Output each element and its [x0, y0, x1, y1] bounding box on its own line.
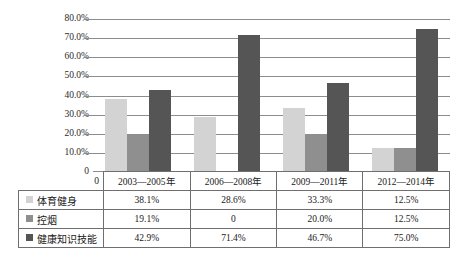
table-cell: 42.9% — [104, 229, 191, 248]
table-cell: 19.1% — [104, 210, 191, 229]
table-row: 体育健身38.1%28.6%33.3%12.5% — [19, 191, 450, 210]
bar-groups — [93, 19, 450, 172]
table-row: 健康知识技能42.9%71.4%46.7%75.0% — [19, 229, 450, 248]
legend-swatch-icon — [26, 196, 33, 203]
bar-group-bars — [182, 19, 271, 172]
table-cell: 0 — [190, 210, 277, 229]
y-axis-tick-mark — [84, 76, 93, 77]
y-axis-tick-label: 70.0% — [33, 33, 89, 43]
table-header-row: 02003—2005年2006—2008年2009—2011年2012—2014… — [19, 172, 450, 191]
bar — [305, 134, 327, 172]
y-axis-tick-labels: 010.0%20.0%30.0%40.0%50.0%60.0%70.0%80.0… — [33, 0, 89, 175]
table-cell: 71.4% — [190, 229, 277, 248]
bar-group-bars — [361, 19, 450, 172]
table-row: 控烟19.1%020.0%12.5% — [19, 210, 450, 229]
legend-row-label: 体育健身 — [19, 191, 104, 210]
bar — [416, 29, 438, 172]
bar-group-bars — [272, 19, 361, 172]
legend-row-label: 控烟 — [19, 210, 104, 229]
table-column-header: 2012—2014年 — [363, 172, 450, 191]
bar — [127, 135, 149, 172]
table-column-header: 2003—2005年 — [104, 172, 191, 191]
y-axis-tick-mark — [84, 38, 93, 39]
axis-origin-label: 0 — [19, 172, 104, 191]
bar — [394, 148, 416, 172]
table-cell: 75.0% — [363, 229, 450, 248]
y-axis-tick-mark — [84, 96, 93, 97]
y-axis-tick-mark — [84, 57, 93, 58]
legend-series-name: 健康知识技能 — [37, 234, 97, 245]
legend-row-label: 健康知识技能 — [19, 229, 104, 248]
bar — [105, 99, 127, 172]
y-axis-tick-label: 30.0% — [33, 110, 89, 120]
y-axis-tick-label: 60.0% — [33, 52, 89, 62]
legend-series-name: 体育健身 — [37, 196, 77, 207]
table-cell: 28.6% — [190, 191, 277, 210]
legend-swatch-icon — [26, 215, 33, 222]
bar — [238, 35, 260, 172]
table-column-header: 2009—2011年 — [277, 172, 363, 191]
y-axis-tick-label: 50.0% — [33, 71, 89, 81]
bar-group — [272, 19, 361, 172]
bar — [194, 117, 216, 172]
y-axis-tick-mark — [84, 153, 93, 154]
bar — [283, 108, 305, 172]
table-column-header: 2006—2008年 — [190, 172, 277, 191]
table-cell: 46.7% — [277, 229, 363, 248]
bar — [149, 90, 171, 172]
y-axis-tick-mark — [84, 134, 93, 135]
bar — [372, 148, 394, 172]
y-axis-tick-mark — [84, 115, 93, 116]
y-axis-tick-label: 40.0% — [33, 91, 89, 101]
bar-chart: 010.0%20.0%30.0%40.0%50.0%60.0%70.0%80.0… — [0, 0, 473, 175]
bar-group — [361, 19, 450, 172]
table-cell: 33.3% — [277, 191, 363, 210]
y-axis-tick-label: 20.0% — [33, 129, 89, 139]
legend-series-name: 控烟 — [37, 215, 57, 226]
y-axis-tick-label: 80.0% — [33, 14, 89, 24]
table-cell: 20.0% — [277, 210, 363, 229]
bar-group-bars — [93, 19, 182, 172]
data-table: 02003—2005年2006—2008年2009—2011年2012—2014… — [18, 171, 450, 248]
table-cell: 12.5% — [363, 210, 450, 229]
bar-group — [93, 19, 182, 172]
legend-swatch-icon — [26, 234, 33, 241]
plot-area — [93, 19, 450, 172]
table-cell: 12.5% — [363, 191, 450, 210]
bar-group — [182, 19, 271, 172]
table-cell: 38.1% — [104, 191, 191, 210]
y-axis-tick-mark — [84, 19, 93, 20]
y-axis-tick-label: 10.0% — [33, 148, 89, 158]
bar — [327, 83, 349, 172]
